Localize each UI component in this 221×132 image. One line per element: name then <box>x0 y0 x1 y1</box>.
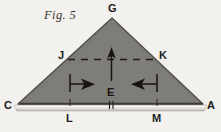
label-point-k: K <box>159 50 167 61</box>
base-plate-group <box>14 105 207 111</box>
label-point-m: M <box>152 113 161 124</box>
label-point-e: E <box>107 87 115 98</box>
figure-diagram <box>0 0 221 132</box>
label-vertex-c: C <box>4 100 12 111</box>
figure-caption: Fig. 5 <box>44 8 76 23</box>
label-point-l: L <box>66 113 73 124</box>
label-vertex-a: A <box>207 100 215 111</box>
figure-container: Fig. 5 G C A J K E L M <box>0 0 221 132</box>
label-apex-g: G <box>108 3 117 14</box>
label-point-j: J <box>58 50 64 61</box>
